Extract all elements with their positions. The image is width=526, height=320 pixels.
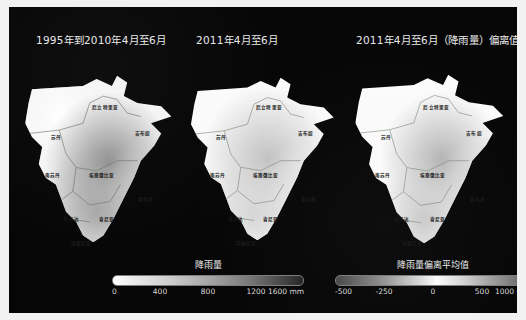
map-label-kenya: 肯尼亚 [263, 216, 278, 222]
map-label-djibouti: 吉布提 [298, 130, 313, 136]
map-label-south-sudan: 南苏丹 [210, 172, 225, 178]
map-label-tanzania: 坦桑尼亚 [402, 240, 422, 246]
map-label-uganda: 乌干达 [228, 216, 243, 222]
legend-anomaly-tick-1: -250 [375, 287, 392, 296]
map-label-sudan: 苏丹 [51, 134, 61, 140]
map-label-tanzania: 坦桑尼亚 [236, 240, 256, 246]
legend-anomaly-title: 降雨量偏离平均值 [335, 258, 517, 271]
map-label-djibouti: 吉布提 [135, 130, 150, 136]
map-title-climatology: 1995年到2010年4月至6月 [15, 32, 206, 47]
map-label-uganda: 乌干达 [63, 216, 78, 222]
map-label-ethiopia: 埃塞俄比亚 [420, 172, 446, 178]
map-label-eritrea: 厄立特里亚 [92, 104, 118, 110]
map-label-ethiopia: 埃塞俄比亚 [89, 172, 115, 178]
legend-rainfall-tick-0: 0 [112, 287, 117, 296]
legend-anomaly-tick-2: 0 [431, 287, 436, 296]
legend-anomaly-tick-3: 500 [475, 287, 489, 296]
legend-rainfall-tick-4: 1600 mm [268, 287, 304, 296]
map-label-kenya: 肯尼亚 [99, 216, 114, 222]
map-label-somalia: 索马里 [138, 196, 153, 202]
map-svg-climatology [15, 59, 185, 259]
legend-rainfall-colorbar [112, 275, 304, 286]
legend-anomaly-tick-0: -500 [335, 287, 352, 296]
map-title-anomaly: 2011年4月至6月（降雨量）偏离值 [345, 32, 517, 47]
legend-anomaly: 降雨量偏离平均值 -500 -250 0 500 1000 mm [335, 258, 517, 299]
map-label-kenya: 肯尼亚 [430, 216, 445, 222]
figure-panel: 1995年到2010年4月至6月 [9, 7, 517, 313]
legend-anomaly-ticks: -500 -250 0 500 1000 mm [335, 287, 517, 299]
legend-rainfall: 降雨量 0 400 800 1200 1600 mm [112, 258, 304, 299]
legend-anomaly-colorbar [335, 275, 517, 286]
map-label-uganda: 乌干达 [394, 216, 409, 222]
map-graphic-2011: 厄立特里亚 吉布提 苏丹 南苏丹 埃塞俄比亚 索马里 乌干达 肯尼亚 坦桑尼亚 [181, 59, 347, 259]
map-label-somalia: 索马里 [470, 196, 485, 202]
legend-anomaly-tick-4: 1000 mm [495, 287, 517, 296]
legend-rainfall-tick-1: 400 [153, 287, 167, 296]
map-label-eritrea: 厄立特里亚 [423, 104, 449, 110]
figure-root: 1995年到2010年4月至6月 [0, 0, 526, 320]
legend-rainfall-tick-2: 800 [201, 287, 215, 296]
legend-rainfall-title: 降雨量 [112, 258, 304, 271]
legend-rainfall-tick-3: 1200 [246, 287, 265, 296]
map-label-south-sudan: 南苏丹 [375, 172, 390, 178]
map-label-eritrea: 厄立特里亚 [256, 104, 282, 110]
map-label-sudan: 苏丹 [216, 134, 226, 140]
map-label-ethiopia: 埃塞俄比亚 [253, 172, 279, 178]
map-label-south-sudan: 南苏丹 [45, 172, 60, 178]
legend-rainfall-ticks: 0 400 800 1200 1600 mm [112, 287, 304, 299]
map-graphic-anomaly: 厄立特里亚 吉布提 苏丹 南苏丹 埃塞俄比亚 索马里 乌干达 肯尼亚 坦桑尼亚 [345, 59, 517, 259]
map-svg-anomaly [345, 59, 517, 259]
map-label-djibouti: 吉布提 [466, 130, 481, 136]
map-svg-2011 [181, 59, 347, 259]
map-label-tanzania: 坦桑尼亚 [71, 240, 91, 246]
map-graphic-climatology: 厄立特里亚 吉布提 苏丹 南苏丹 埃塞俄比亚 索马里 乌干达 肯尼亚 坦桑尼亚 [15, 59, 185, 259]
map-label-somalia: 索马里 [301, 196, 316, 202]
map-label-sudan: 苏丹 [381, 134, 391, 140]
map-title-2011: 2011年4月至6月 [181, 32, 362, 47]
